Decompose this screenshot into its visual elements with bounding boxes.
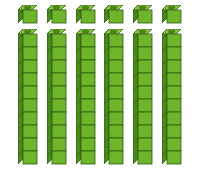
unit-cube — [18, 5, 38, 24]
ten-rod — [133, 29, 153, 165]
unit-cube — [47, 5, 67, 24]
ten-rod — [47, 29, 67, 165]
ten-rod — [104, 29, 124, 165]
ten-rod — [162, 29, 182, 165]
ten-rod — [18, 29, 38, 165]
unit-cube — [104, 5, 124, 24]
ten-rod — [76, 29, 96, 165]
unit-cube — [162, 5, 182, 24]
unit-cube — [76, 5, 96, 24]
unit-cube — [133, 5, 153, 24]
